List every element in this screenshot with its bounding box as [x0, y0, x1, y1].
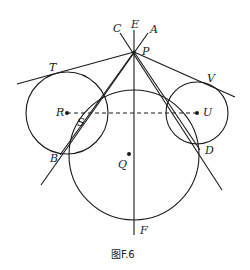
label-P: P: [141, 45, 150, 58]
label-E: E: [130, 18, 139, 31]
label-S: S: [77, 116, 85, 129]
point-P: [133, 51, 136, 54]
label-U: U: [203, 106, 213, 119]
label-T: T: [49, 61, 58, 74]
label-Q: Q: [118, 158, 127, 171]
figure-caption: 图F.6: [111, 249, 135, 260]
label-D: D: [204, 144, 214, 157]
point-Q: [127, 152, 131, 156]
label-C: C: [113, 22, 122, 35]
label-R: R: [55, 106, 64, 119]
tangent-PT: [17, 52, 134, 84]
label-A: A: [149, 23, 158, 36]
geometry-figure: E C A P T V R S U B D Q F 图F.6: [0, 0, 250, 270]
label-B: B: [49, 152, 58, 165]
point-R: [65, 111, 69, 115]
point-U: [195, 111, 199, 115]
label-F: F: [139, 224, 148, 237]
label-V: V: [207, 72, 216, 85]
